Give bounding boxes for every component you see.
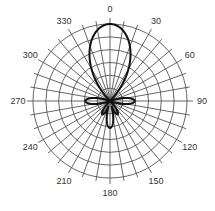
angle-label-30: 30 <box>151 16 161 26</box>
angle-label-240: 240 <box>23 142 38 152</box>
angle-label-90: 90 <box>197 96 207 106</box>
polar-plot: 0306090120150180210240270300330 <box>0 0 215 211</box>
angle-label-210: 210 <box>56 176 71 186</box>
angle-label-150: 150 <box>148 176 163 186</box>
angle-label-60: 60 <box>185 50 195 60</box>
angle-label-0: 0 <box>107 4 112 14</box>
angle-label-300: 300 <box>23 50 38 60</box>
angle-label-330: 330 <box>56 16 71 26</box>
angle-label-120: 120 <box>182 142 197 152</box>
angle-label-270: 270 <box>10 96 25 106</box>
angle-label-180: 180 <box>102 188 117 198</box>
